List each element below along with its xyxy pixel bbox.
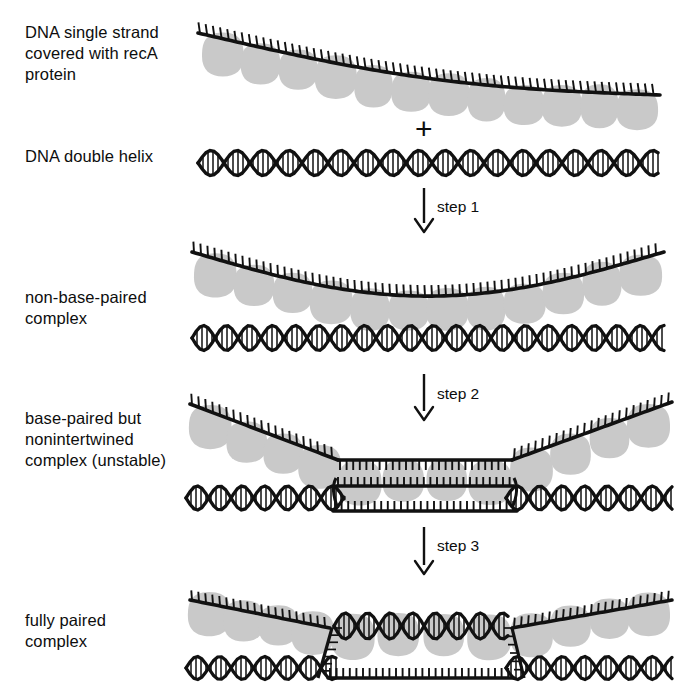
label-reactant-single-strand: DNA single strand covered with recA prot… [25, 22, 159, 85]
label-product-base-paired: base-paired but nonintertwined complex (… [25, 408, 166, 471]
diagram-canvas [0, 0, 677, 693]
plus-operator: + [415, 114, 433, 144]
step-label-2: step 2 [437, 385, 479, 403]
label-reactant-duplex: DNA double helix [25, 146, 153, 167]
label-product-fully-paired: fully paired complex [25, 610, 106, 652]
recombination-diagram: DNA single strand covered with recA prot… [0, 0, 677, 693]
step-label-1: step 1 [437, 198, 479, 216]
step-label-3: step 3 [437, 537, 479, 555]
label-product-non-base-paired: non-base-paired complex [25, 287, 147, 329]
